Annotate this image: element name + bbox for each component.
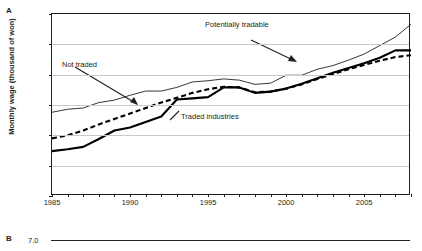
x-axis-tick-label: 2005 [356,198,373,207]
y-axis-tick-mark [49,105,52,106]
panel-b-plot-area [51,240,410,251]
x-axis-tick-label: 1985 [44,198,61,207]
annotation-traded-industries: Traded industries [181,112,239,121]
x-axis-tick-mark [271,194,272,197]
gridline [52,105,409,106]
x-axis-tick-mark [52,194,53,197]
x-axis-tick-label: 1995 [200,198,217,207]
x-axis-tick-mark [395,194,396,197]
x-axis-tick-mark [192,194,193,197]
x-axis-tick-label: 1990 [122,198,139,207]
x-axis-tick-mark [99,194,100,197]
x-axis-tick-mark [333,194,334,197]
x-axis-tick-mark [146,194,147,197]
x-axis-tick-mark [161,194,162,197]
y-axis-tick-mark [49,14,52,15]
panel-a-plot-area: 05001,0001,5002,0002,5003,00019851990199… [51,13,410,195]
gridline [52,135,409,136]
annotation-not-traded: Not traded [62,60,97,69]
x-axis-tick-mark [380,194,381,197]
panel-b-letter: B [6,234,12,243]
y-axis-tick-mark [49,75,52,76]
x-axis-tick-mark [114,194,115,197]
y-axis-tick-mark [49,135,52,136]
gridline [52,166,409,167]
annotation-potentially-tradable: Potentially tradable [205,20,269,29]
gridline [52,44,409,45]
panel-a-y-axis-title: Monthly wage (thousand of won) [7,2,16,152]
x-axis-tick-mark [286,194,287,197]
x-axis-tick-mark [349,194,350,197]
panel-b-ytick-label: 7.0 [28,236,38,245]
x-axis-tick-mark [364,194,365,197]
x-axis-tick-mark [302,194,303,197]
x-axis-tick-mark [130,194,131,197]
x-axis-tick-mark [177,194,178,197]
x-axis-tick-mark [255,194,256,197]
panel-b: B 7.0 [0,212,422,251]
x-axis-tick-mark [224,194,225,197]
x-axis-tick-label: 2000 [278,198,295,207]
figure-container: A Monthly wage (thousand of won) 05001,0… [0,0,422,251]
x-axis-tick-mark [411,194,412,197]
y-axis-tick-mark [49,44,52,45]
x-axis-tick-mark [239,194,240,197]
x-axis-tick-mark [208,194,209,197]
y-axis-tick-mark [49,166,52,167]
panel-a: A Monthly wage (thousand of won) 05001,0… [0,0,422,212]
gridline [52,75,409,76]
x-axis-tick-mark [317,194,318,197]
x-axis-tick-mark [68,194,69,197]
x-axis-tick-mark [83,194,84,197]
